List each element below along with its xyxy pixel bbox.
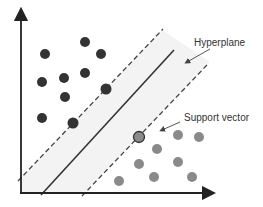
support-vector-point [134,132,145,143]
diagram-canvas: Hyperplane Support vector [0,0,263,207]
svm-diagram: Hyperplane Support vector [0,0,263,207]
support-vector-pointer-arrow [162,122,180,130]
support-vector-label: Support vector [184,112,250,123]
hyperplane-label: Hyperplane [194,37,246,48]
